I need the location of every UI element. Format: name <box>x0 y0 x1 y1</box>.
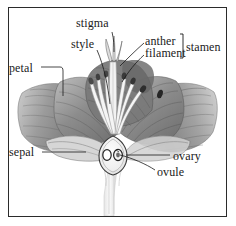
label-ovary: ovary <box>173 150 201 163</box>
label-petal: petal <box>9 62 33 75</box>
label-stamen: stamen <box>186 41 221 54</box>
figure-panel: stigma style anther filament stamen peta… <box>0 0 236 226</box>
label-ovule: ovule <box>157 166 184 179</box>
figure-border <box>8 7 227 217</box>
label-style: style <box>71 38 94 51</box>
label-sepal: sepal <box>9 146 34 159</box>
label-filament: filament <box>145 47 186 60</box>
label-stigma: stigma <box>76 17 109 30</box>
